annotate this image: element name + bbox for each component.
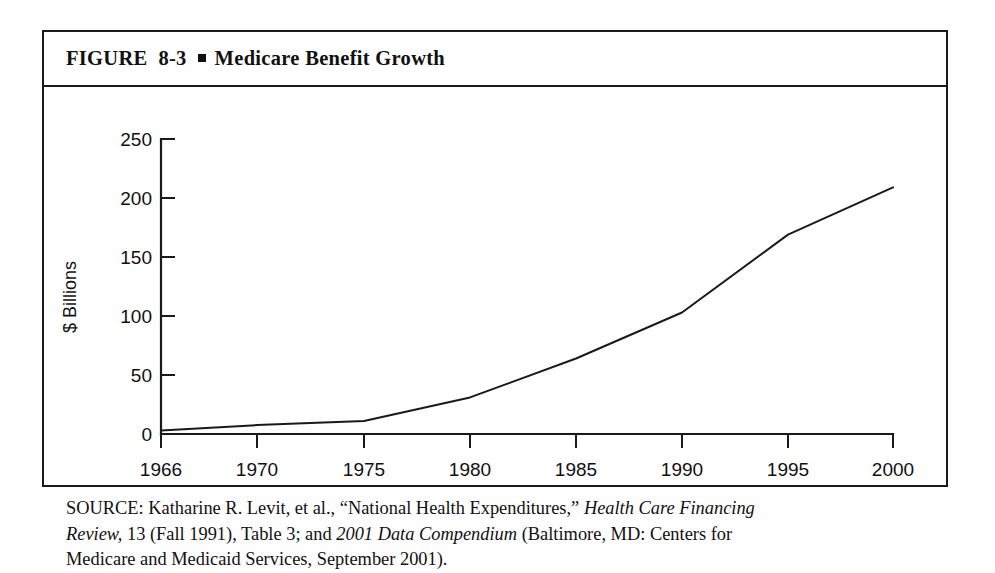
figure-frame: FIGURE 8-3 Medicare Benefit Growth <box>42 30 948 487</box>
y-axis-ticks <box>161 139 175 434</box>
y-tick-label-100: 100 <box>120 306 152 327</box>
x-tick-label-1995: 1995 <box>767 459 809 480</box>
title-bullet-square <box>198 54 206 62</box>
y-axis-title: $ Billions <box>60 261 80 333</box>
figure-title-bar: FIGURE 8-3 Medicare Benefit Growth <box>44 32 946 87</box>
figure-page: FIGURE 8-3 Medicare Benefit Growth <box>0 0 995 573</box>
x-tick-label-1980: 1980 <box>449 459 491 480</box>
y-tick-label-150: 150 <box>120 247 152 268</box>
x-tick-label-1966: 1966 <box>140 459 182 480</box>
figure-number-label: FIGURE 8-3 <box>66 47 187 70</box>
data-series-line <box>161 187 893 430</box>
figure-title-text: Medicare Benefit Growth <box>215 47 445 70</box>
source-line3: Medicare and Medicaid Services, Septembe… <box>66 549 447 569</box>
chart-plot-area: 0 50 100 150 200 250 $ Billions <box>44 87 946 485</box>
x-tick-label-1970: 1970 <box>236 459 278 480</box>
x-tick-label-1975: 1975 <box>343 459 385 480</box>
source-line2-italic-compendium: 2001 Data Compendium <box>336 524 517 544</box>
y-tick-label-50: 50 <box>131 365 152 386</box>
y-tick-label-0: 0 <box>141 424 152 445</box>
source-line1-plain: SOURCE: Katharine R. Levit, et al., “Nat… <box>66 498 584 518</box>
x-axis-ticks <box>161 434 893 448</box>
x-tick-label-2000: 2000 <box>872 459 914 480</box>
source-line1-italic: Health Care Financing <box>584 498 755 518</box>
x-tick-label-1985: 1985 <box>555 459 597 480</box>
x-tick-label-1990: 1990 <box>661 459 703 480</box>
source-line2-plain-tail: (Baltimore, MD: Centers for <box>517 524 732 544</box>
y-axis-tick-labels: 0 50 100 150 200 250 <box>120 129 152 445</box>
line-chart-svg: 0 50 100 150 200 250 $ Billions <box>44 87 946 485</box>
source-line2-italic-review: Review, <box>66 524 122 544</box>
y-tick-label-200: 200 <box>120 188 152 209</box>
x-axis-tick-labels: 1966 1970 1975 1980 1985 1990 1995 2000 <box>140 459 914 480</box>
figure-source-note: SOURCE: Katharine R. Levit, et al., “Nat… <box>66 496 946 573</box>
y-tick-label-250: 250 <box>120 129 152 150</box>
source-line2-plain: 13 (Fall 1991), Table 3; and <box>122 524 336 544</box>
